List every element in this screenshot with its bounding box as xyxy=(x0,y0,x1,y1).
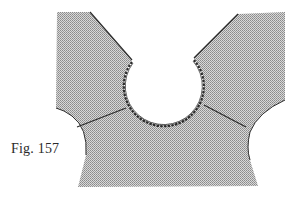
garment-diagram xyxy=(0,0,302,198)
figure-caption: Fig. 157 xyxy=(11,141,59,157)
fabric-body xyxy=(56,12,285,187)
